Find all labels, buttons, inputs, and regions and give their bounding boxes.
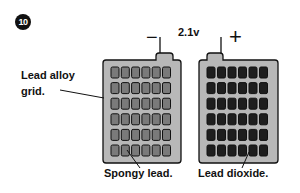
grid-cell: [163, 67, 171, 78]
negative-plate: [103, 53, 181, 163]
grid-cell: [152, 114, 160, 125]
grid-cell: [163, 129, 171, 140]
grid-cell: [207, 129, 215, 140]
grid-cell: [163, 83, 171, 94]
grid-cell: [111, 114, 119, 125]
grid-cell: [218, 83, 226, 94]
grid-cell: [111, 145, 119, 156]
grid-cell: [132, 83, 140, 94]
grid-cell: [260, 145, 268, 156]
grid-cell: [111, 98, 119, 109]
grid-cell: [142, 114, 150, 125]
grid-cell: [218, 67, 226, 78]
grid-cell: [228, 145, 236, 156]
grid-cell: [207, 83, 215, 94]
grid-cell: [239, 129, 247, 140]
grid-cell: [142, 83, 150, 94]
grid-cell: [260, 67, 268, 78]
grid-cell: [132, 129, 140, 140]
grid-cell: [249, 114, 257, 125]
grid-cell: [218, 98, 226, 109]
grid-cell: [142, 67, 150, 78]
grid-cell: [228, 67, 236, 78]
grid-cell: [121, 129, 129, 140]
grid-cell: [249, 83, 257, 94]
grid-cell: [152, 98, 160, 109]
grid-cell: [152, 145, 160, 156]
grid-cell: [111, 129, 119, 140]
grid-cell: [121, 83, 129, 94]
grid-cell: [218, 145, 226, 156]
grid-cell: [163, 98, 171, 109]
grid-cell: [260, 83, 268, 94]
grid-cell: [132, 145, 140, 156]
grid-cell: [152, 83, 160, 94]
grid-leader-line: [60, 90, 104, 98]
grid-cell: [239, 114, 247, 125]
grid-cell: [121, 98, 129, 109]
grid-cell: [142, 145, 150, 156]
grid-cell: [152, 67, 160, 78]
grid-cell: [218, 114, 226, 125]
grid-cell: [239, 83, 247, 94]
grid-cell: [142, 98, 150, 109]
grid-cell: [249, 98, 257, 109]
grid-cell: [121, 145, 129, 156]
grid-cell: [111, 67, 119, 78]
grid-cell: [207, 145, 215, 156]
grid-cell: [249, 145, 257, 156]
grid-cell: [163, 114, 171, 125]
grid-cell: [239, 145, 247, 156]
grid-cell: [132, 114, 140, 125]
grid-cell: [121, 114, 129, 125]
grid-cell: [207, 114, 215, 125]
grid-cell: [249, 67, 257, 78]
grid-cell: [260, 98, 268, 109]
grid-cell: [260, 129, 268, 140]
grid-cell: [121, 67, 129, 78]
grid-cell: [163, 145, 171, 156]
grid-cell: [132, 98, 140, 109]
grid-cell: [142, 129, 150, 140]
positive-plate: [199, 53, 278, 163]
grid-cell: [228, 83, 236, 94]
grid-cell: [152, 129, 160, 140]
grid-cell: [239, 98, 247, 109]
grid-cell: [228, 98, 236, 109]
grid-cell: [111, 83, 119, 94]
grid-cell: [228, 114, 236, 125]
grid-cell: [132, 67, 140, 78]
grid-cell: [218, 129, 226, 140]
grid-cell: [260, 114, 268, 125]
battery-plates-diagram: [0, 0, 300, 193]
grid-cell: [207, 98, 215, 109]
grid-cell: [249, 129, 257, 140]
grid-cell: [207, 67, 215, 78]
grid-cell: [228, 129, 236, 140]
grid-cell: [239, 67, 247, 78]
